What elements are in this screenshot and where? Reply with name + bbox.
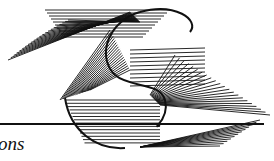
string-art-graphic — [0, 0, 274, 161]
section-title-fragment: ons — [0, 134, 24, 153]
horizontal-rule — [0, 123, 264, 125]
